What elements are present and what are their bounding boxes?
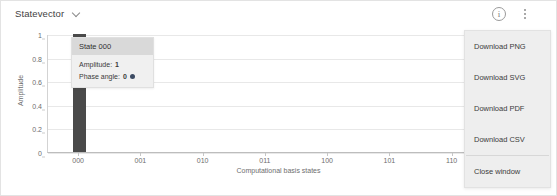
tooltip-phase-row: Phase angle: 0 — [79, 73, 146, 80]
tooltip-amplitude-label: Amplitude: — [79, 61, 112, 68]
y-tick-mark — [42, 86, 45, 87]
kebab-dot — [524, 17, 526, 19]
menu-item-download-png[interactable]: Download PNG — [465, 31, 550, 62]
x-tick-mark — [327, 153, 328, 156]
x-tick-label: 000 — [72, 157, 84, 164]
window-header: Statevector i — [1, 1, 556, 31]
y-tick-label: 0.4 — [32, 102, 42, 109]
x-tick-label: 100 — [321, 157, 333, 164]
x-tick-label: 001 — [135, 157, 147, 164]
y-tick-mark — [42, 133, 45, 134]
phase-color-swatch — [130, 74, 135, 79]
tooltip-phase-value: 0 — [123, 73, 127, 80]
kebab-menu-icon[interactable] — [518, 6, 532, 22]
kebab-dot — [524, 13, 526, 15]
x-tick-mark — [140, 153, 141, 156]
statevector-window: Statevector i Amplitude 00.20.40.60.81 0… — [0, 0, 557, 196]
tooltip-body: Amplitude: 1 Phase angle: 0 — [72, 55, 153, 87]
y-tick-mark — [42, 62, 45, 63]
y-tick-label: 1 — [38, 32, 42, 39]
info-icon[interactable]: i — [492, 7, 506, 21]
window-title: Statevector — [15, 8, 64, 19]
chevron-down-icon[interactable] — [72, 9, 81, 18]
tooltip-state-title: State 000 — [72, 38, 153, 55]
tooltip-amplitude-value: 1 — [115, 61, 119, 68]
y-tick-label: 0.2 — [32, 126, 42, 133]
y-tick-label: 0.8 — [32, 55, 42, 62]
x-tick-label: 101 — [384, 157, 396, 164]
x-tick-mark — [389, 153, 390, 156]
x-tick-label: 011 — [259, 157, 270, 164]
x-tick-mark — [452, 153, 453, 156]
y-tick-label: 0.6 — [32, 79, 42, 86]
y-tick-mark — [42, 39, 45, 40]
x-tick-mark — [265, 153, 266, 156]
menu-item-download-csv[interactable]: Download CSV — [465, 124, 550, 155]
statevector-selector[interactable]: Statevector — [15, 8, 81, 19]
y-axis-ticks: 00.20.40.60.81 — [21, 35, 45, 153]
x-tick-mark — [78, 153, 79, 156]
y-tick-label: 0 — [38, 150, 42, 157]
download-menu: Download PNGDownload SVGDownload PDFDown… — [464, 30, 551, 188]
header-actions: i — [492, 6, 532, 22]
x-tick-mark — [203, 153, 204, 156]
menu-item-close-window[interactable]: Close window — [465, 156, 550, 187]
menu-item-download-svg[interactable]: Download SVG — [465, 62, 550, 93]
menu-item-download-pdf[interactable]: Download PDF — [465, 93, 550, 124]
x-tick-label: 110 — [446, 157, 457, 164]
y-tick-mark — [42, 109, 45, 110]
kebab-dot — [524, 9, 526, 11]
tooltip-amplitude-row: Amplitude: 1 — [79, 61, 146, 68]
x-tick-label: 010 — [197, 157, 209, 164]
bar-tooltip: State 000 Amplitude: 1 Phase angle: 0 — [71, 37, 154, 88]
y-tick-mark — [42, 157, 45, 158]
tooltip-phase-label: Phase angle: — [79, 73, 120, 80]
